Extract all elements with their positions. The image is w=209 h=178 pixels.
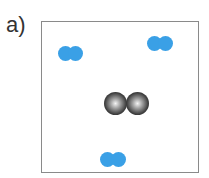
blue-atom <box>158 36 173 51</box>
blue-atom <box>111 152 126 167</box>
dark-atom <box>104 92 127 115</box>
blue-atom <box>68 46 83 61</box>
panel-label: a) <box>6 12 26 38</box>
dark-atom <box>126 92 149 115</box>
